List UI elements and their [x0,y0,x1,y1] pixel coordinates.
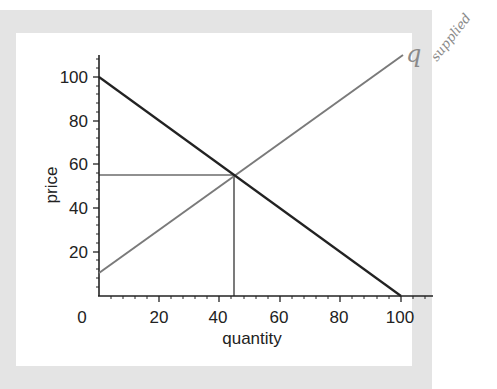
handwritten-supplied: supplied [428,10,474,63]
x-tick-80: 80 [330,308,349,327]
x-tick-0: 0 [77,308,86,327]
y-tick-80: 80 [69,112,88,131]
demand-line [99,77,401,296]
y-tick-60: 60 [69,155,88,174]
x-tick-60: 60 [270,308,289,327]
handwritten-annotation: q supplied [406,10,474,68]
y-tick-20: 20 [69,243,88,262]
supply-demand-chart: 100 80 60 40 20 0 20 40 60 80 100 quanti… [0,0,497,389]
y-tick-100: 100 [60,68,88,87]
handwritten-q: q [406,40,421,68]
equilibrium-guides [99,175,234,296]
x-tick-100: 100 [386,308,414,327]
x-axis-title: quantity [222,329,282,348]
y-tick-40: 40 [69,199,88,218]
x-tick-40: 40 [209,308,228,327]
x-tick-20: 20 [150,308,169,327]
y-axis-title: price [42,167,61,204]
supply-line [99,55,403,273]
